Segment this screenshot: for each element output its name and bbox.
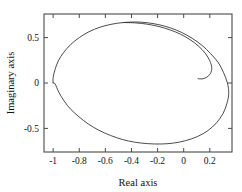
- x-tick-label: -1: [49, 156, 57, 166]
- y-tick-label: 0: [34, 78, 39, 88]
- nyquist-plot-figure: -1-0.8-0.6-0.4-0.200.2 0.50-0.5 Real axi…: [0, 0, 242, 192]
- x-tick-label: -0.6: [98, 156, 113, 166]
- x-tick-label: -0.8: [72, 156, 87, 166]
- x-tick-label: 0: [181, 156, 186, 166]
- x-tick-label: 0.2: [204, 156, 216, 166]
- y-tick-label: -0.5: [24, 124, 39, 134]
- x-tick-label: -0.4: [124, 156, 139, 166]
- y-axis-title: Imaginary axis: [5, 52, 16, 115]
- x-tick-label: -0.2: [150, 156, 165, 166]
- x-axis-title: Real axis: [119, 177, 158, 188]
- chart-canvas: -1-0.8-0.6-0.4-0.200.2 0.50-0.5 Real axi…: [0, 0, 242, 192]
- y-tick-label: 0.5: [27, 33, 39, 43]
